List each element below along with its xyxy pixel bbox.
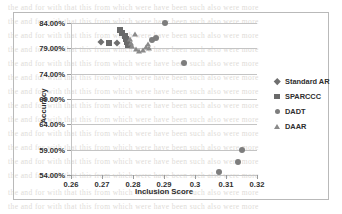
y-axis-tickmark bbox=[67, 99, 71, 100]
gridline-horizontal bbox=[71, 124, 257, 125]
legend-item-label: DAAR bbox=[285, 122, 306, 131]
data-point-triangle bbox=[145, 42, 151, 47]
legend-item[interactable]: DAAR bbox=[272, 119, 342, 134]
gridline-horizontal bbox=[71, 99, 257, 100]
data-point-square bbox=[123, 36, 129, 42]
data-point-circle bbox=[181, 60, 187, 66]
y-axis-tick-label: 84.00% bbox=[39, 19, 65, 28]
gridline-horizontal bbox=[71, 74, 257, 75]
data-point-diamond bbox=[98, 38, 105, 45]
chart-legend: Standard ARSPARCCCDADTDAAR bbox=[272, 74, 342, 134]
data-point-triangle bbox=[132, 31, 138, 36]
x-axis-tickmark bbox=[195, 175, 196, 179]
data-point-triangle bbox=[128, 40, 134, 45]
data-point-diamond bbox=[113, 39, 120, 46]
x-axis-tick-label: 0.31 bbox=[219, 180, 234, 189]
y-axis-tick-label: 59.00% bbox=[39, 145, 65, 154]
legend-item-label: SPARCCC bbox=[285, 92, 321, 101]
data-point-square bbox=[119, 30, 125, 36]
y-axis-tickmark bbox=[67, 23, 71, 24]
data-point-triangle bbox=[127, 37, 133, 42]
legend-item-label: DADT bbox=[285, 107, 306, 116]
y-axis-tickmark bbox=[67, 74, 71, 75]
x-axis-tick-label: 0.28 bbox=[126, 180, 141, 189]
data-point-circle bbox=[153, 35, 159, 41]
legend-item[interactable]: SPARCCC bbox=[272, 89, 342, 104]
y-axis-tickmark bbox=[67, 124, 71, 125]
y-axis-tickmark bbox=[67, 48, 71, 49]
data-point-square bbox=[106, 40, 112, 46]
data-point-square bbox=[124, 39, 130, 45]
y-axis-tick-label: 54.00% bbox=[39, 171, 65, 180]
x-axis-tickmark bbox=[102, 175, 103, 179]
y-axis-tick-label: 79.00% bbox=[39, 44, 65, 53]
y-axis-tick-label: 64.00% bbox=[39, 120, 65, 129]
y-axis-tick-label: 74.00% bbox=[39, 69, 65, 78]
x-axis-tick-label: 0.26 bbox=[64, 180, 79, 189]
scatter-chart-figure: Accuracy Inclusion Score 54.00%59.00%64.… bbox=[13, 12, 329, 200]
gridline-horizontal bbox=[71, 150, 257, 151]
plot-area: 54.00%59.00%64.00%69.00%74.00%79.00%84.0… bbox=[71, 23, 257, 175]
diamond-marker-icon bbox=[272, 79, 282, 84]
circle-marker-icon bbox=[272, 109, 282, 114]
gridline-horizontal bbox=[71, 48, 257, 49]
x-axis-tickmark bbox=[133, 175, 134, 179]
legend-item[interactable]: DADT bbox=[272, 104, 342, 119]
legend-item[interactable]: Standard AR bbox=[272, 74, 342, 89]
x-axis-tick-label: 0.29 bbox=[157, 180, 172, 189]
square-marker-icon bbox=[272, 94, 282, 100]
x-axis-tickmark bbox=[164, 175, 165, 179]
triangle-marker-icon bbox=[272, 124, 282, 129]
gridline-horizontal bbox=[71, 23, 257, 24]
x-axis-tickmark bbox=[226, 175, 227, 179]
data-point-square bbox=[122, 33, 128, 39]
data-point-square bbox=[125, 42, 131, 48]
y-axis-tickmark bbox=[67, 150, 71, 151]
data-point-circle bbox=[149, 37, 155, 43]
y-axis-tick-label: 69.00% bbox=[39, 95, 65, 104]
x-axis-tick-label: 0.3 bbox=[190, 180, 201, 189]
x-axis-tick-label: 0.32 bbox=[250, 180, 265, 189]
x-axis-tick-label: 0.27 bbox=[95, 180, 110, 189]
x-axis-tickmark bbox=[71, 175, 72, 179]
data-point-square bbox=[117, 27, 123, 33]
x-axis-tickmark bbox=[257, 175, 258, 179]
data-point-circle bbox=[235, 159, 241, 165]
legend-item-label: Standard AR bbox=[285, 77, 329, 86]
